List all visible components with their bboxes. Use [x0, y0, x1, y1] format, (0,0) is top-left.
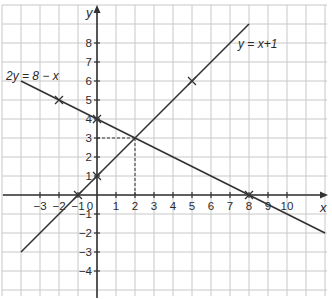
x-tick-label: 4: [170, 200, 177, 212]
y-tick-label: 1: [86, 170, 92, 182]
line-labels: y = x+12y = 8 − x: [5, 37, 277, 83]
y-tick-label: 7: [86, 56, 92, 68]
y-tick-label: 5: [86, 94, 92, 106]
x-tick-label: 7: [227, 200, 233, 212]
y-tick-label: 6: [86, 75, 92, 87]
y-tick-label: 8: [86, 37, 92, 49]
x-tick-label: 8: [246, 200, 252, 212]
x-tick-label: 10: [281, 200, 294, 212]
x-axis-arrow-icon: [320, 192, 328, 199]
y-tick-label: 3: [86, 132, 92, 144]
label-y-equals-x-plus-1: y = x+1: [237, 37, 277, 51]
x-tick-label: 5: [189, 200, 195, 212]
y-tick-label: 2: [86, 151, 92, 163]
y-axis-arrow-icon: [94, 5, 101, 13]
axes: xy: [3, 5, 328, 298]
grid-lines: [2, 5, 327, 296]
label-2y-equals-8-minus-x: 2y = 8 − x: [5, 69, 60, 83]
x-axis-label: x: [319, 200, 327, 215]
y-tick-label: −3: [79, 246, 92, 258]
x-tick-label: 3: [151, 200, 157, 212]
y-tick-label: −2: [79, 227, 92, 239]
y-axis-label: y: [85, 5, 94, 20]
y-tick-label: −1: [79, 208, 92, 220]
x-tick-label: −3: [33, 200, 46, 212]
x-tick-label: 2: [132, 200, 138, 212]
x-tick-label: 1: [113, 200, 119, 212]
y-tick-label: −4: [79, 265, 93, 277]
x-tick-label: 6: [208, 200, 214, 212]
linear-graph: xy −3−2−101234567891087654321−1−2−3−4 y …: [0, 0, 332, 299]
